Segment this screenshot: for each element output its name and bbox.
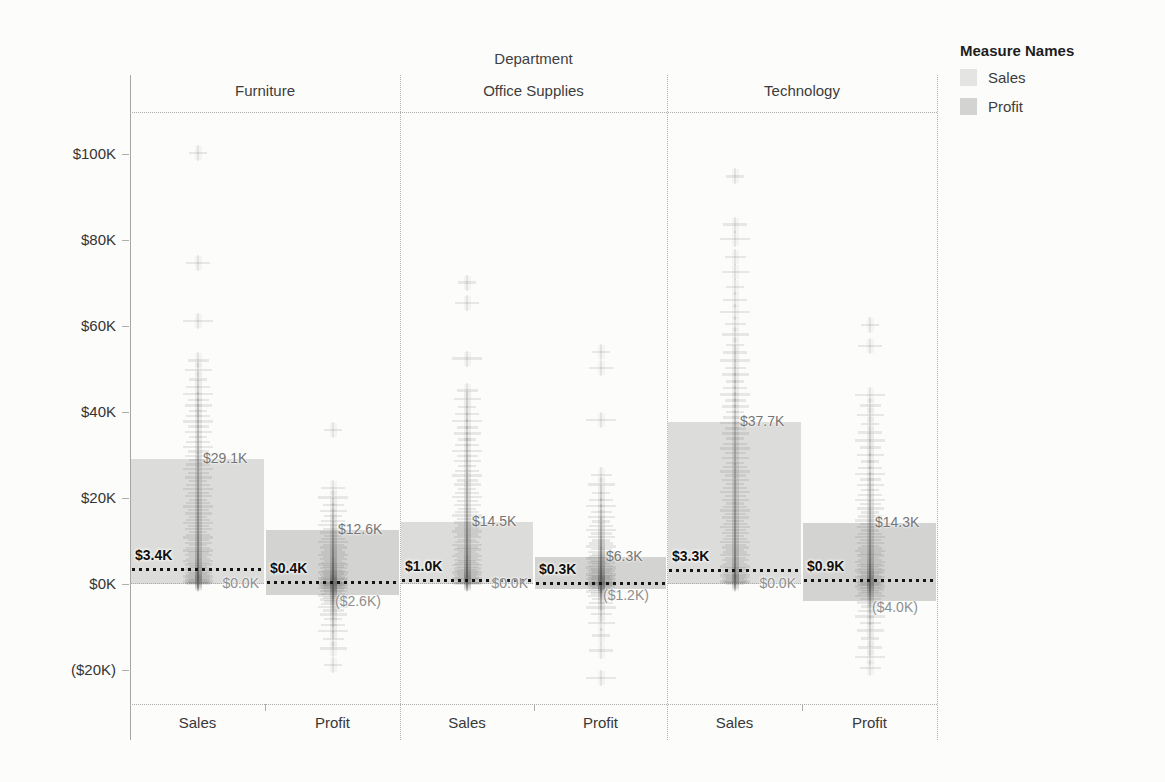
y-tick-label: $60K — [20, 317, 116, 334]
y-tick-mark — [122, 670, 129, 671]
data-mark — [330, 423, 337, 437]
y-tick-mark — [122, 240, 129, 241]
data-mark — [732, 232, 739, 246]
x-axis-label-profit: Profit — [802, 714, 937, 731]
band-bottom-label: $0.0K — [692, 575, 796, 591]
data-mark — [598, 361, 605, 375]
data-mark — [732, 265, 739, 279]
reference-line — [267, 581, 398, 584]
panel-header-technology: Technology — [667, 82, 937, 99]
band-bottom-label: $0.0K — [424, 575, 528, 591]
x-axis-label-sales: Sales — [667, 714, 802, 731]
plot-top-edge — [130, 112, 937, 114]
reference-line-label: $0.9K — [807, 558, 844, 574]
panel-header-office-supplies: Office Supplies — [400, 82, 667, 99]
band-top-label: $29.1K — [203, 450, 247, 466]
data-mark — [598, 644, 605, 658]
data-mark — [195, 256, 202, 270]
band-top-label: $14.3K — [875, 514, 919, 530]
data-mark — [732, 218, 739, 232]
data-mark — [195, 146, 202, 160]
data-mark — [330, 658, 337, 672]
band-top-label: $6.3K — [606, 548, 643, 564]
x-axis-label-profit: Profit — [265, 714, 400, 731]
plot-right-edge — [937, 75, 939, 740]
band-top-label: $37.7K — [740, 413, 784, 429]
x-tick-mark — [534, 704, 535, 711]
reference-line — [132, 568, 263, 571]
reference-line-label: $0.4K — [270, 560, 307, 576]
band-top-label: $14.5K — [472, 513, 516, 529]
reference-line-label: $0.3K — [539, 561, 576, 577]
panel-divider — [667, 75, 669, 740]
y-tick-mark — [122, 584, 129, 585]
chart-figure: Department Measure Names SalesProfit $10… — [0, 0, 1165, 782]
panel-divider — [400, 75, 402, 740]
y-tick-mark — [122, 498, 129, 499]
y-tick-label: $20K — [20, 489, 116, 506]
y-tick-label: $100K — [20, 145, 116, 162]
x-tick-mark — [265, 704, 266, 711]
data-mark — [867, 318, 874, 332]
y-tick-mark — [122, 326, 129, 327]
reference-line-label: $3.3K — [672, 548, 709, 564]
y-tick-mark — [122, 154, 129, 155]
data-mark — [464, 296, 471, 310]
reference-line-label: $3.4K — [135, 547, 172, 563]
y-tick-label: ($20K) — [20, 661, 116, 678]
y-tick-label: $40K — [20, 403, 116, 420]
data-mark — [330, 642, 337, 656]
data-mark — [464, 352, 471, 366]
y-tick-label: $80K — [20, 231, 116, 248]
chart-plot-area: $100K$80K$60K$40K$20K$0K($20K)Furniture$… — [0, 0, 1165, 782]
x-tick-mark — [802, 704, 803, 711]
x-axis-label-sales: Sales — [130, 714, 265, 731]
data-mark — [867, 339, 874, 353]
band-bottom-label: $0.0K — [155, 575, 259, 591]
y-tick-mark — [122, 412, 129, 413]
band-bottom-label: ($1.2K) — [603, 587, 649, 603]
band-top-label: $12.6K — [338, 521, 382, 537]
x-axis-label-sales: Sales — [400, 714, 534, 731]
data-mark — [732, 169, 739, 183]
data-mark — [598, 413, 605, 427]
band-bottom-label: ($2.6K) — [335, 593, 381, 609]
data-mark — [598, 345, 605, 359]
data-mark — [598, 629, 605, 643]
reference-line — [669, 569, 800, 572]
band-bottom-label: ($4.0K) — [872, 599, 918, 615]
y-axis-line — [130, 75, 131, 740]
reference-line-label: $1.0K — [405, 558, 442, 574]
reference-line — [804, 579, 935, 582]
data-mark — [464, 276, 471, 290]
data-mark — [195, 314, 202, 328]
data-mark — [867, 661, 874, 675]
y-tick-label: $0K — [20, 575, 116, 592]
data-mark — [732, 250, 739, 264]
data-mark — [598, 671, 605, 685]
x-axis-label-profit: Profit — [534, 714, 667, 731]
reference-line — [536, 582, 665, 585]
panel-header-furniture: Furniture — [130, 82, 400, 99]
